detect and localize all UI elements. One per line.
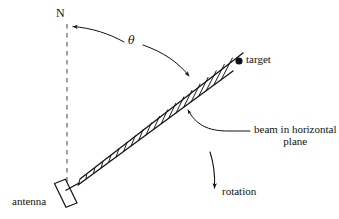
label-antenna: antenna bbox=[12, 196, 46, 208]
diagram-canvas bbox=[0, 0, 339, 219]
label-theta-angle: θ bbox=[128, 35, 135, 47]
label-beam-line2: plane bbox=[254, 136, 336, 148]
target-marker bbox=[235, 57, 242, 64]
label-beam-line1: beam in horizontal bbox=[254, 123, 336, 135]
label-target: target bbox=[246, 54, 271, 66]
beam-strip bbox=[78, 53, 243, 185]
label-north: N bbox=[56, 7, 65, 20]
rotation-arrow bbox=[210, 152, 215, 188]
label-beam-horizontal-plane: beam in horizontalplane bbox=[254, 124, 336, 147]
radar-antenna-diagram: N θ target beam in horizontalplane rotat… bbox=[0, 0, 339, 219]
label-rotation: rotation bbox=[222, 186, 256, 198]
antenna-body bbox=[55, 179, 80, 207]
beam-leader-line bbox=[188, 110, 250, 131]
